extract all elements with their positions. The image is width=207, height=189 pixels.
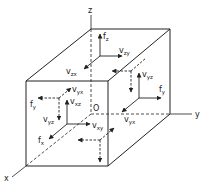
svg-text:vyx: vyx [124,115,136,126]
axis-y-label: y [195,110,200,119]
stress-cube-diagram: z y x O fz vzy vzx vyz fy vyx vyx fy [0,0,207,189]
svg-text:vyz: vyz [43,115,54,126]
axes [12,15,192,177]
svg-text:vxz: vxz [70,97,81,107]
svg-text:fx: fx [38,136,45,146]
top-face-vectors [84,34,146,71]
svg-text:fy: fy [30,100,37,111]
hidden-edges [26,29,170,166]
svg-text:vzy: vzy [119,46,131,57]
axis-x-label: x [4,174,9,183]
axis-z-label: z [88,6,92,15]
svg-text:vzx: vzx [66,67,78,77]
origin-label: O [93,104,99,113]
svg-text:fz: fz [103,32,109,42]
svg-text:vyx: vyx [72,85,84,96]
svg-text:vxy: vxy [92,121,104,132]
svg-text:vyz: vyz [142,70,153,81]
svg-text:fy: fy [159,85,166,96]
cube-edges [26,29,170,166]
